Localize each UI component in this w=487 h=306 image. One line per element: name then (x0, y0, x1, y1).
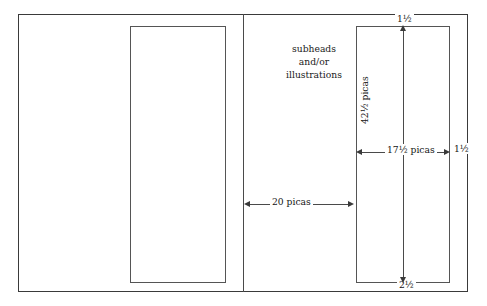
arrow-left-icon (356, 149, 362, 155)
dimension-label-top-margin: 1½ (395, 13, 414, 24)
arrow-down-icon (400, 277, 406, 283)
arrow-left-icon (244, 201, 250, 207)
dimension-line-text-block-height (403, 30, 404, 280)
arrow-right-icon (444, 149, 450, 155)
dimension-label-outer-margin: 1½ (452, 143, 471, 154)
dimension-label-page-width: 20 picas (270, 196, 313, 207)
dimension-label-text-block-width: 17½ picas (385, 144, 437, 155)
gutter-fold-line (243, 14, 244, 292)
annotation-subheads-illustrations: subheads and/or illustrations (266, 42, 362, 81)
text-block-left-page (130, 26, 226, 283)
arrow-right-icon (348, 201, 354, 207)
annotation-line-2: and/or (266, 55, 362, 68)
layout-diagram: subheads and/or illustrations 1½ 2½ 1½ 4… (0, 0, 487, 306)
dimension-label-text-block-height: 42½ picas (359, 73, 370, 127)
arrow-up-icon (400, 25, 406, 31)
annotation-line-3: illustrations (266, 68, 362, 81)
annotation-line-1: subheads (266, 42, 362, 55)
